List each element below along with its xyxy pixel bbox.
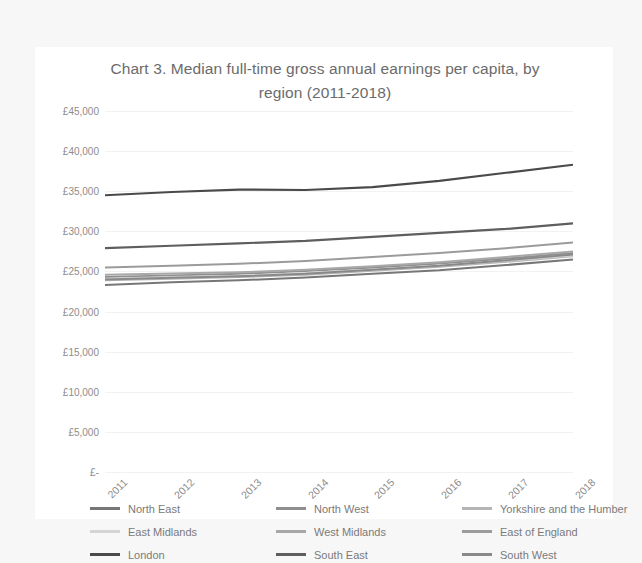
legend-label: Yorkshire and the Humber xyxy=(500,503,627,515)
legend-label: East Midlands xyxy=(128,526,197,538)
y-axis-tick-label: £35,000 xyxy=(63,186,99,197)
plot-area: £45,000£40,000£35,000£30,000£25,000£20,0… xyxy=(105,111,573,472)
legend-swatch-icon xyxy=(276,507,306,510)
legend-item[interactable]: South West xyxy=(462,549,642,561)
y-axis-tick-label: £20,000 xyxy=(63,306,99,317)
legend-label: East of England xyxy=(500,526,578,538)
legend-swatch-icon xyxy=(276,530,306,533)
legend-label: London xyxy=(128,549,165,561)
legend-item[interactable]: South East xyxy=(276,549,462,561)
chart-title-line-2: region (2011-2018) xyxy=(259,84,392,101)
y-axis-tick-label: £30,000 xyxy=(63,226,99,237)
legend-row: East MidlandsWest MidlandsEast of Englan… xyxy=(90,520,642,543)
series-line xyxy=(105,223,573,248)
legend-swatch-icon xyxy=(276,553,306,556)
legend-item[interactable]: North West xyxy=(276,503,462,515)
legend-item[interactable]: Yorkshire and the Humber xyxy=(462,503,642,515)
legend-item[interactable]: East Midlands xyxy=(90,526,276,538)
legend-swatch-icon xyxy=(462,507,492,510)
y-axis-tick-label: £10,000 xyxy=(63,386,99,397)
legend-item[interactable]: West Midlands xyxy=(276,526,462,538)
legend-row: North EastNorth WestYorkshire and the Hu… xyxy=(90,497,642,520)
y-axis-tick-label: £45,000 xyxy=(63,106,99,117)
chart-title-line-1: Chart 3. Median full-time gross annual e… xyxy=(110,60,539,77)
series-line xyxy=(105,165,573,195)
legend-swatch-icon xyxy=(462,530,492,533)
legend-label: North East xyxy=(128,503,180,515)
legend-swatch-icon xyxy=(462,553,492,556)
legend-item[interactable]: North East xyxy=(90,503,276,515)
legend-item[interactable]: London xyxy=(90,549,276,561)
chart-panel: Chart 3. Median full-time gross annual e… xyxy=(35,47,613,519)
y-axis-tick-label: £- xyxy=(90,467,99,478)
legend-swatch-icon xyxy=(90,530,120,533)
series-lines xyxy=(105,111,573,472)
y-axis-tick-label: £25,000 xyxy=(63,266,99,277)
legend-label: South West xyxy=(500,549,557,561)
y-axis-tick-label: £15,000 xyxy=(63,346,99,357)
legend-row: LondonSouth EastSouth West xyxy=(90,543,642,563)
y-axis-tick-label: £40,000 xyxy=(63,146,99,157)
chart-title: Chart 3. Median full-time gross annual e… xyxy=(85,57,565,105)
legend-label: North West xyxy=(314,503,369,515)
chart-legend: North EastNorth WestYorkshire and the Hu… xyxy=(90,497,642,563)
legend-label: South East xyxy=(314,549,368,561)
legend-swatch-icon xyxy=(90,507,120,510)
legend-swatch-icon xyxy=(90,553,120,556)
legend-item[interactable]: East of England xyxy=(462,526,642,538)
legend-label: West Midlands xyxy=(314,526,386,538)
y-axis-tick-label: £5,000 xyxy=(68,426,99,437)
